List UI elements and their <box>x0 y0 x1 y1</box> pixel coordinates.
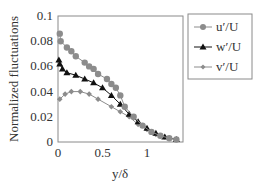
circle-marker-icon <box>95 71 101 77</box>
circle-marker-icon <box>68 48 74 54</box>
circle-marker-icon <box>57 30 63 36</box>
y-axis-label: Normalized fluctuations <box>6 16 21 142</box>
circle-marker-icon <box>90 66 96 72</box>
legend-label-v: v′/U <box>216 59 239 74</box>
circle-marker-icon <box>113 85 119 91</box>
circle-marker-icon <box>166 135 172 141</box>
circle-marker-icon <box>122 104 128 110</box>
circle-marker-icon <box>173 136 179 142</box>
x-tick-label: 1 <box>144 145 151 160</box>
circle-marker-icon <box>139 122 145 128</box>
y-tick-label: 0.02 <box>30 109 53 124</box>
x-tick-label: 0 <box>55 145 62 160</box>
legend-label-u: u′/U <box>216 19 239 34</box>
y-tick-label: 0.04 <box>30 84 53 99</box>
circle-marker-icon <box>57 38 63 44</box>
y-tick-label: 0.08 <box>30 33 53 48</box>
y-tick-label: 0.1 <box>37 8 53 23</box>
legend: u′/U w′/U v′/U <box>188 14 252 79</box>
circle-marker-icon <box>117 92 123 98</box>
circle-marker-icon <box>157 133 163 139</box>
circle-marker-icon <box>130 114 136 120</box>
y-tick-label: 0 <box>47 134 54 149</box>
circle-marker-icon <box>148 129 154 135</box>
line-chart: 00.020.040.060.080.1 00.51 Normalized fl… <box>0 0 259 187</box>
circle-marker-icon <box>104 76 110 82</box>
x-tick-label: 0.5 <box>94 145 110 160</box>
plot-area <box>58 16 183 142</box>
circle-marker-icon <box>73 53 79 59</box>
legend-label-w: w′/U <box>216 39 242 54</box>
x-axis-ticks: 00.51 <box>55 145 151 160</box>
x-axis-label: y/δ <box>112 166 128 181</box>
circle-marker-icon <box>200 24 206 30</box>
y-tick-label: 0.06 <box>30 58 53 73</box>
y-axis-ticks: 00.020.040.060.080.1 <box>30 8 53 149</box>
